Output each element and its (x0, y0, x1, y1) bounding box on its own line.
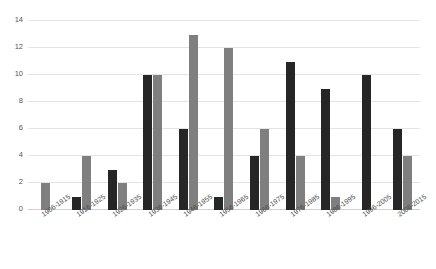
bar (143, 75, 152, 210)
bar (153, 75, 162, 210)
bar-group (99, 21, 135, 210)
bar-group (349, 21, 385, 210)
bar (224, 48, 233, 210)
x-tick: 1996-2005 (361, 212, 394, 219)
x-tick: 1976-1985 (289, 212, 322, 219)
bar-group (313, 21, 349, 210)
y-tick-label: 2 (19, 178, 28, 186)
bar (179, 129, 188, 210)
x-axis-labels: 1906-19151916-19251926-19351936-19451946… (28, 212, 420, 269)
bar-group (135, 21, 171, 210)
bar (108, 170, 117, 211)
bar-group (384, 21, 420, 210)
bars-layer (28, 21, 420, 210)
bar-chart: 02468101214 1906-19151916-19251926-19351… (0, 0, 436, 269)
x-tick: 1986-1995 (325, 212, 358, 219)
bar (250, 156, 259, 210)
y-tick-label: 12 (15, 43, 28, 51)
y-tick-label: 0 (19, 205, 28, 213)
x-tick: 1956-1965 (218, 212, 251, 219)
bar (362, 75, 371, 210)
x-tick: 1966-1975 (254, 212, 287, 219)
x-tick: 2006-2015 (396, 212, 429, 219)
bar (260, 129, 269, 210)
y-tick-label: 10 (15, 70, 28, 78)
x-tick: 1916-1925 (75, 212, 108, 219)
bar-group (28, 21, 64, 210)
y-tick-label: 4 (19, 151, 28, 159)
bar (286, 62, 295, 211)
x-tick: 1946-1955 (182, 212, 215, 219)
y-tick-label: 8 (19, 97, 28, 105)
x-tick: 1936-1945 (147, 212, 180, 219)
bar-group (64, 21, 100, 210)
y-tick-label: 14 (15, 16, 28, 24)
bar (393, 129, 402, 210)
x-tick: 1926-1935 (111, 212, 144, 219)
bar-group (242, 21, 278, 210)
bar-group (206, 21, 242, 210)
plot-area: 02468101214 (28, 21, 420, 210)
bar (321, 89, 330, 211)
bar-group (277, 21, 313, 210)
x-tick: 1906-1915 (40, 212, 73, 219)
bar-group (171, 21, 207, 210)
y-tick-label: 6 (19, 124, 28, 132)
bar (189, 35, 198, 211)
